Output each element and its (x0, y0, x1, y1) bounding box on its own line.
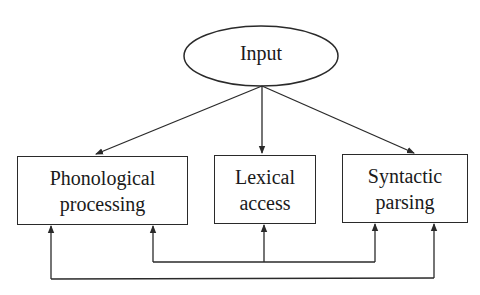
lexical-line2: access (239, 190, 290, 216)
arrow-input-to-syntactic (262, 86, 414, 153)
lexical-access-box: Lexical access (214, 155, 316, 224)
syntactic-parsing-box: Syntactic parsing (342, 154, 468, 223)
syntactic-line1: Syntactic (368, 163, 442, 189)
phonological-line2: processing (60, 191, 146, 217)
phonological-processing-box: Phonological processing (17, 156, 188, 225)
phonological-line1: Phonological (50, 165, 156, 191)
input-node-label: Input (184, 40, 338, 66)
lexical-line1: Lexical (235, 164, 295, 190)
arrow-input-to-phonological (96, 86, 262, 154)
outer-loop-connector (51, 278, 434, 279)
syntactic-line2: parsing (376, 189, 435, 215)
